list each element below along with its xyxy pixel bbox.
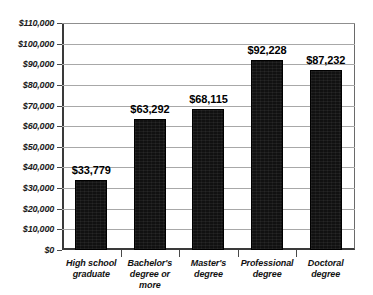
x-axis-category-label-line1: Doctoral	[308, 258, 344, 268]
bar-slot: $68,115	[179, 23, 238, 250]
y-axis-tick-label: $110,000	[0, 19, 54, 28]
x-axis-category-label-line2: graduate	[62, 269, 121, 280]
x-axis-category-label-line2: degree	[238, 269, 297, 280]
x-axis-separator	[238, 250, 239, 257]
y-axis-tick-label: $50,000	[0, 143, 54, 152]
y-axis-tick-label: $90,000	[0, 60, 54, 69]
y-axis-tick-label: $20,000	[0, 205, 54, 214]
x-axis-category-label: Doctoraldegree	[296, 258, 355, 280]
bar-slot: $87,232	[296, 23, 355, 250]
x-axis-category-label-line1: High school	[66, 258, 116, 268]
x-axis-separator	[121, 250, 122, 257]
y-axis-tick-label: $80,000	[0, 81, 54, 90]
y-axis-tick-label: $70,000	[0, 102, 54, 111]
x-axis-category-label-line1: Master's	[191, 258, 226, 268]
x-axis-category-label-line1: Bachelor's	[128, 258, 173, 268]
bar[interactable]	[134, 119, 166, 250]
y-axis-tick-label: $0	[0, 246, 54, 255]
bar[interactable]	[310, 70, 342, 250]
y-axis-tick-label: $60,000	[0, 122, 54, 131]
y-axis-tick	[57, 250, 62, 251]
x-axis-category-label-line2: degree	[179, 269, 238, 280]
y-axis-tick-label: $100,000	[0, 40, 54, 49]
bar-slot: $92,228	[238, 23, 297, 250]
bar-value-label: $68,115	[189, 93, 227, 105]
bar-slot: $63,292	[121, 23, 180, 250]
bar[interactable]	[75, 180, 107, 250]
x-axis-category-label: Professionaldegree	[238, 258, 297, 280]
y-axis-tick-label: $30,000	[0, 184, 54, 193]
x-axis-category-label-line2: degree	[296, 269, 355, 280]
bars-group: $33,779$63,292$68,115$92,228$87,232	[62, 23, 355, 250]
x-axis-category-label: Bachelor'sdegree or more	[121, 258, 180, 291]
bar-chart: $0$10,000$20,000$30,000$40,000$50,000$60…	[0, 0, 373, 295]
x-axis-category-label-line1: Professional	[241, 258, 294, 268]
bar-value-label: $63,292	[130, 103, 169, 115]
y-axis-tick-label: $10,000	[0, 225, 54, 234]
bar[interactable]	[192, 109, 224, 250]
x-axis-separator	[296, 250, 297, 257]
bar-value-label: $87,232	[306, 54, 345, 66]
bar-slot: $33,779	[62, 23, 121, 250]
x-axis-category-label-line2: degree or more	[121, 269, 180, 291]
bar[interactable]	[251, 60, 283, 250]
y-axis-tick-label: $40,000	[0, 163, 54, 172]
bar-value-label: $92,228	[248, 44, 287, 56]
x-axis-labels: High schoolgraduateBachelor'sdegree or m…	[62, 258, 355, 292]
x-axis-category-label: High schoolgraduate	[62, 258, 121, 280]
x-axis-separator	[179, 250, 180, 257]
x-axis-category-label: Master'sdegree	[179, 258, 238, 280]
bar-value-label: $33,779	[72, 164, 111, 176]
